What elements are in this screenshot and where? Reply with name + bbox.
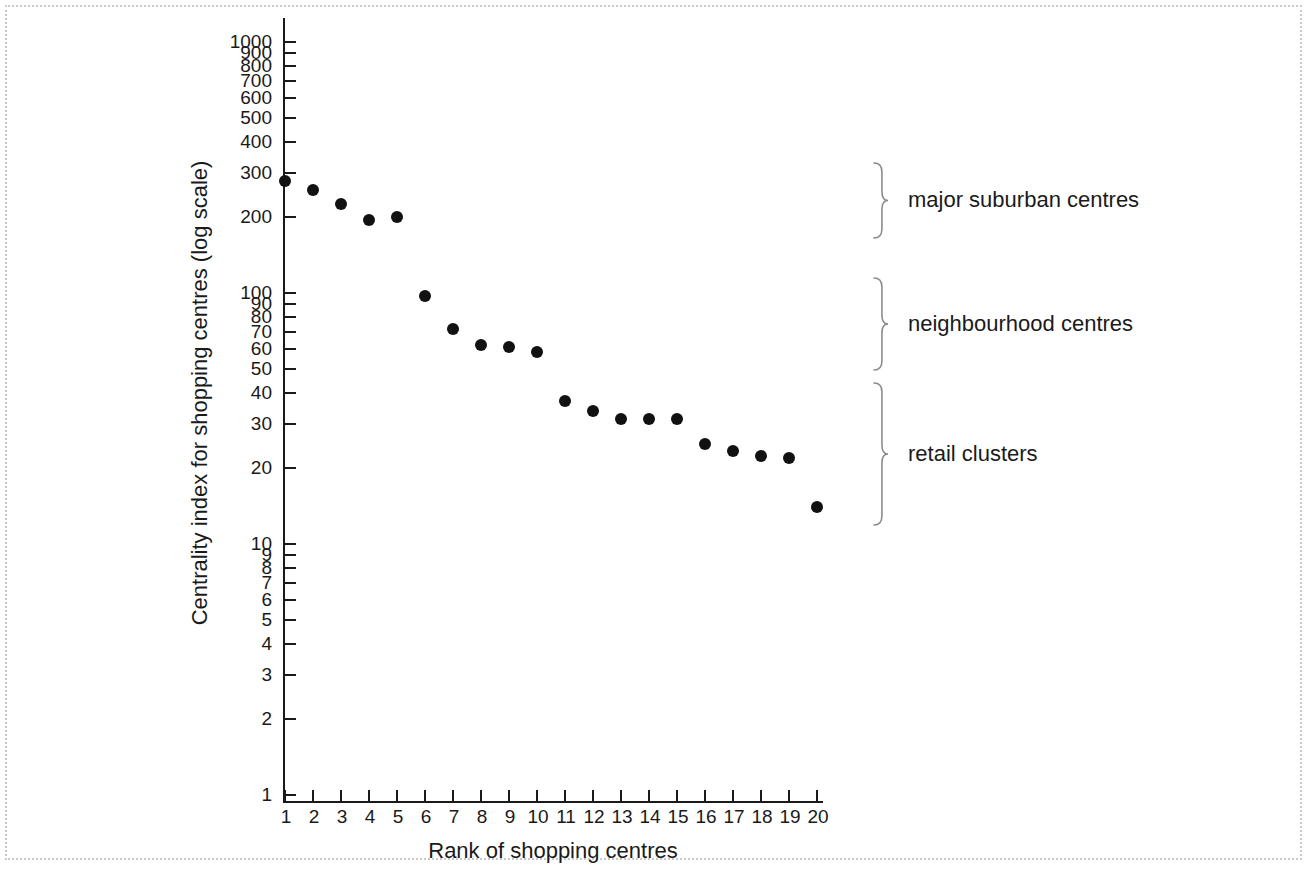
data-point: [643, 413, 655, 425]
x-axis-title: Rank of shopping centres: [283, 838, 823, 864]
y-axis-tick-label: 6: [216, 590, 272, 609]
y-axis-tick-label-text: 600: [216, 88, 272, 107]
data-point: [671, 413, 683, 425]
y-axis-tick: [285, 368, 296, 370]
data-point: [503, 341, 515, 353]
y-axis-tick-label-text: 4: [216, 634, 272, 653]
x-axis-tick: [788, 790, 790, 801]
y-axis-tick: [285, 292, 296, 294]
data-point: [615, 413, 627, 425]
x-axis-tick: [340, 790, 342, 801]
y-axis-tick-label: 1: [216, 785, 272, 804]
y-axis-tick: [285, 794, 296, 796]
y-axis-tick-label: 200: [216, 207, 272, 226]
data-point: [307, 184, 319, 196]
x-axis-tick-label: 6: [411, 806, 441, 828]
y-axis-tick: [285, 331, 296, 333]
y-axis-tick-label-text: 500: [216, 108, 272, 127]
chart-figure: 1000900800700600500400300200100908070605…: [0, 0, 1311, 869]
y-axis-tick-label-text: 60: [216, 339, 272, 358]
data-point: [755, 450, 767, 462]
y-axis-tick-label-text: 50: [216, 359, 272, 378]
y-axis-tick: [285, 554, 296, 556]
annotation-group: neighbourhood centres: [872, 278, 1212, 370]
data-point: [559, 395, 571, 407]
annotation-label: neighbourhood centres: [908, 313, 1133, 335]
annotation-label: major suburban centres: [908, 189, 1139, 211]
y-axis-title: Centrality index for shopping centres (l…: [187, 133, 213, 653]
y-axis-tick-label-text: 2: [216, 709, 272, 728]
y-axis-tick: [285, 172, 296, 174]
y-axis-tick-label: 500: [216, 108, 272, 127]
x-axis-tick-label: 18: [747, 806, 777, 828]
data-point: [727, 445, 739, 457]
y-axis-tick: [285, 52, 296, 54]
x-axis-tick-label: 13: [607, 806, 637, 828]
y-axis-tick-label: 40: [216, 383, 272, 402]
x-axis-tick: [452, 790, 454, 801]
curly-brace-icon: [872, 163, 894, 238]
data-point: [391, 211, 403, 223]
scatter-plot-area: 1000900800700600500400300200100908070605…: [0, 0, 1311, 869]
x-axis-tick-label: 9: [495, 806, 525, 828]
x-axis-tick: [480, 790, 482, 801]
x-axis-tick-label: 5: [383, 806, 413, 828]
y-axis-tick: [285, 543, 296, 545]
y-axis-tick: [285, 467, 296, 469]
data-point: [363, 214, 375, 226]
y-axis-tick-label-text: 3: [216, 665, 272, 684]
x-axis-tick: [536, 790, 538, 801]
x-axis-tick-label: 12: [579, 806, 609, 828]
y-axis-tick-label: 300: [216, 163, 272, 182]
y-axis-tick: [285, 216, 296, 218]
y-axis-tick: [285, 674, 296, 676]
data-point: [419, 290, 431, 302]
y-axis-tick: [285, 423, 296, 425]
x-axis-tick-label: 7: [439, 806, 469, 828]
x-axis-tick: [704, 790, 706, 801]
y-axis-tick: [285, 117, 296, 119]
y-axis-tick-label: 5: [216, 610, 272, 629]
y-axis-tick-label-text: 1: [216, 785, 272, 804]
x-axis-tick-label: 11: [551, 806, 581, 828]
data-point: [587, 405, 599, 417]
x-axis-tick: [424, 790, 426, 801]
y-axis-tick-label: 400: [216, 132, 272, 151]
x-axis-tick-label: 8: [467, 806, 497, 828]
data-point: [447, 323, 459, 335]
data-point: [699, 438, 711, 450]
y-axis-tick-label-text: 30: [216, 414, 272, 433]
y-axis-tick: [285, 65, 296, 67]
y-axis-tick: [285, 718, 296, 720]
y-axis-tick-label-text: 200: [216, 207, 272, 226]
y-axis-tick: [285, 619, 296, 621]
x-axis-tick: [312, 790, 314, 801]
curly-brace-icon: [872, 278, 894, 370]
x-axis-tick: [396, 790, 398, 801]
y-axis-line: [283, 18, 285, 803]
y-axis-tick: [285, 582, 296, 584]
data-point: [335, 198, 347, 210]
data-point: [279, 175, 291, 187]
data-point: [531, 346, 543, 358]
x-axis-tick: [620, 790, 622, 801]
x-axis-tick-label: 20: [803, 806, 833, 828]
y-axis-tick-label-text: 40: [216, 383, 272, 402]
y-axis-tick-label-text: 400: [216, 132, 272, 151]
y-axis-tick: [285, 643, 296, 645]
y-axis-tick: [285, 80, 296, 82]
x-axis-tick: [368, 790, 370, 801]
x-axis-tick: [648, 790, 650, 801]
x-axis-tick: [732, 790, 734, 801]
x-axis-tick-label: 10: [523, 806, 553, 828]
data-point: [811, 501, 823, 513]
x-axis-tick-label: 14: [635, 806, 665, 828]
y-axis-tick: [285, 303, 296, 305]
data-point: [783, 452, 795, 464]
y-axis-tick-label: 30: [216, 414, 272, 433]
x-axis-tick: [508, 790, 510, 801]
y-axis-tick-label-text: 20: [216, 458, 272, 477]
y-axis-tick-label-text: 6: [216, 590, 272, 609]
x-axis-tick-label: 3: [327, 806, 357, 828]
annotation-group: retail clusters: [872, 383, 1212, 525]
